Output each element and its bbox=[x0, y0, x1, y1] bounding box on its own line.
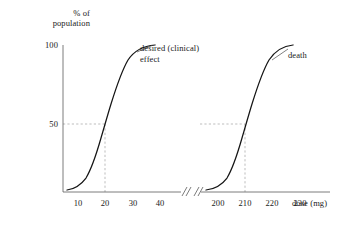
desired-effect-curve bbox=[67, 45, 155, 190]
x-tick-label-10: 10 bbox=[63, 198, 93, 208]
x-tick-label-220: 220 bbox=[257, 198, 287, 208]
desired-effect-annotation-line1: desired (clinical) bbox=[140, 43, 199, 53]
y-axis-title: % of population bbox=[28, 8, 90, 28]
x-tick-label-40: 40 bbox=[145, 198, 175, 208]
y-tick-label-50: 50 bbox=[30, 119, 58, 129]
y-tick-label-100: 100 bbox=[30, 40, 58, 50]
x-axis-title: dose (mg) bbox=[292, 198, 327, 208]
desired-effect-annotation-line2: effect bbox=[140, 54, 160, 64]
axis-break-marks bbox=[182, 187, 203, 196]
x-tick-label-200: 200 bbox=[203, 198, 233, 208]
desired-effect-annotation: desired (clinical) effect bbox=[140, 43, 220, 64]
death-curve bbox=[206, 45, 293, 190]
dose-response-chart: % of population 100 50 10 20 30 40 200 2… bbox=[0, 0, 347, 227]
death-leader-line bbox=[272, 49, 288, 60]
x-tick-label-210: 210 bbox=[230, 198, 260, 208]
chart-plot-area bbox=[0, 0, 347, 227]
x-tick-label-20: 20 bbox=[90, 198, 120, 208]
x-tick-label-30: 30 bbox=[118, 198, 148, 208]
y-axis-title-line2: population bbox=[53, 18, 90, 28]
y-axis-title-line1: % of bbox=[73, 8, 90, 18]
death-annotation: death bbox=[288, 50, 307, 60]
